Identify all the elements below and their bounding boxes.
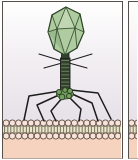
phospholipid-head [78,133,84,139]
figure-bacteriophage-adsorption [0,0,138,160]
phospholipid-head [84,133,90,139]
panel-next-sliver [128,1,138,159]
phospholipid-head [96,133,102,139]
phospholipid-head [16,120,22,126]
phospholipid-head [115,120,121,126]
phospholipid-heads-outer [129,120,137,126]
phospholipid-head [40,133,46,139]
phospholipid-head [28,133,34,139]
lipid-bilayer-membrane [3,120,121,139]
phospholipid-heads-outer [3,120,121,126]
phospholipid-head [9,120,15,126]
phospholipid-head [34,133,40,139]
phospholipid-head [102,120,108,126]
phospholipid-head [90,120,96,126]
phospholipid-head [135,133,137,139]
phospholipid-head [22,133,28,139]
phospholipid-head [65,120,71,126]
phospholipid-head [90,133,96,139]
fatty-acid-band [3,126,121,133]
phospholipid-head [109,120,115,126]
phospholipid-head [84,120,90,126]
phospholipid-head [71,133,77,139]
baseplate [56,88,73,100]
phospholipid-head [59,133,65,139]
phospholipid-heads-inner [129,133,137,139]
phospholipid-head [3,133,9,139]
baseplate-lobe [67,88,72,93]
phospholipid-head [71,120,77,126]
phospholipid-head [65,133,71,139]
phospholipid-head [129,120,135,126]
phospholipid-head [135,120,137,126]
baseplate-lobe [56,89,61,94]
extracellular-background [129,2,137,134]
phospholipid-head [47,120,53,126]
next-panel-illustration [129,2,137,158]
phospholipid-head [115,133,121,139]
phospholipid-head [47,133,53,139]
phospholipid-head [28,120,34,126]
phospholipid-head [34,120,40,126]
phospholipid-head [16,133,22,139]
phospholipid-head [3,120,9,126]
phage-membrane-illustration [3,2,121,158]
phospholipid-head [109,133,115,139]
phospholipid-head [22,120,28,126]
phospholipid-head [59,120,65,126]
baseplate-lobe [59,94,65,100]
panel-phage-on-membrane [2,1,123,159]
phospholipid-head [129,133,135,139]
baseplate-lobe [66,93,71,98]
phospholipid-head [96,120,102,126]
phospholipid-head [53,133,59,139]
lipid-bilayer-membrane [129,120,137,139]
phospholipid-head [102,133,108,139]
phospholipid-heads-inner [3,133,121,139]
phospholipid-head [9,133,15,139]
baseplate-lobe [63,88,68,93]
